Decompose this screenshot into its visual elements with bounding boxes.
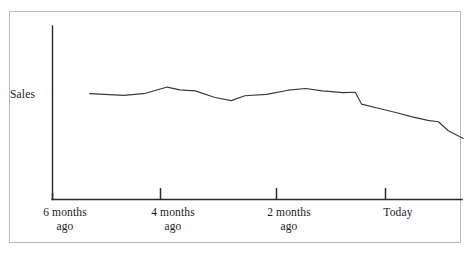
x-tick-label-3-line1: Today	[383, 206, 412, 220]
series-line-sales	[90, 87, 464, 138]
x-tick-label-2-line2: ago	[267, 220, 311, 234]
x-tick-label-1-line1: 4 months	[151, 206, 195, 220]
x-tick-label-1: 4 months ago	[151, 206, 195, 233]
x-tick-label-3: Today	[383, 206, 412, 220]
x-tick-label-2: 2 months ago	[267, 206, 311, 233]
x-tick-label-1-line2: ago	[151, 220, 195, 234]
series-group	[90, 87, 464, 138]
axes-group	[52, 26, 462, 200]
x-tick-label-0: 6 months ago	[43, 206, 87, 233]
y-axis-label: Sales	[10, 88, 35, 100]
x-tick-label-0-line1: 6 months	[43, 206, 87, 220]
x-tick-label-0-line2: ago	[43, 220, 87, 234]
x-axis-ticks	[53, 188, 386, 200]
chart-figure: Sales 6 months ago 4 months ago 2 months…	[0, 0, 471, 259]
x-tick-label-2-line1: 2 months	[267, 206, 311, 220]
